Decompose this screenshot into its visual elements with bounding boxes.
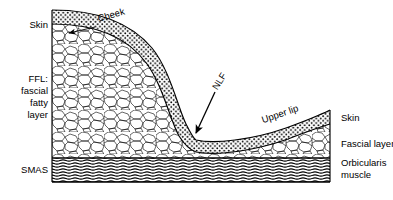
diagram-canvas: SkinFFL:fascialfattylayerSMAS SkinFascia…	[0, 0, 393, 200]
label-skin: Skin	[341, 112, 359, 123]
label-nlf: NLF	[210, 70, 229, 91]
right-label-group: SkinFascial layerOrbicularismuscle	[341, 112, 393, 180]
label-orbicularis-muscle-line-0: Orbicularis	[341, 157, 387, 168]
label-ffl-line-3: layer	[27, 109, 48, 120]
label-orbicularis-muscle-line-1: muscle	[341, 169, 371, 180]
label-fascial-layer: Fascial layer	[341, 138, 393, 149]
nlf-arrow	[196, 92, 215, 133]
left-label-group: SkinFFL:fascialfattylayerSMAS	[21, 19, 48, 175]
layer-smas-orbicularis	[52, 158, 330, 182]
label-upper-lip: Upper lip	[260, 102, 300, 125]
label-ffl-line-1: fascial	[21, 85, 48, 96]
label-ffl-line-0: FFL:	[28, 73, 48, 84]
anatomy-figure: SkinFFL:fascialfattylayerSMAS SkinFascia…	[0, 0, 393, 200]
label-skin: Skin	[30, 19, 48, 30]
label-smas: SMAS	[21, 164, 48, 175]
label-ffl-line-2: fatty	[30, 97, 48, 108]
